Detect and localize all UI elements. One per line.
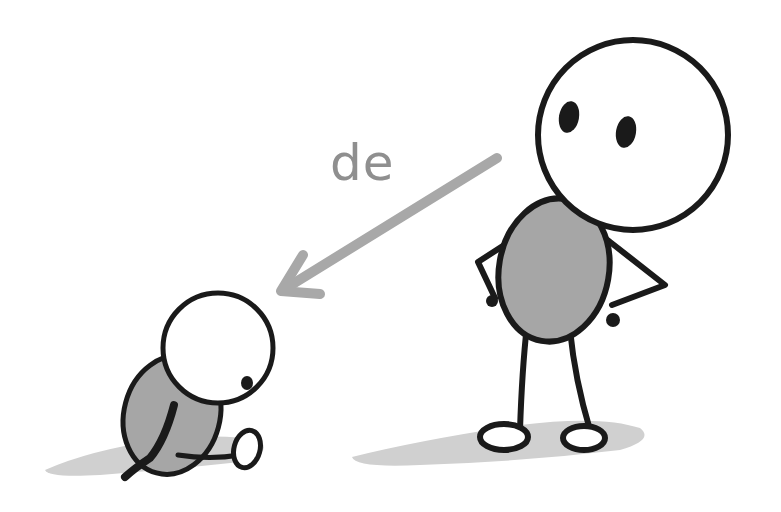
arrow-label: de <box>330 138 395 188</box>
illustration-scene: de <box>0 0 781 512</box>
child-figure <box>110 293 273 485</box>
adult-figure <box>478 40 728 450</box>
